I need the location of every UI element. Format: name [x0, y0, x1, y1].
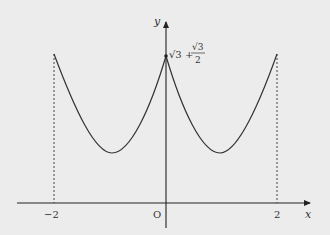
curve-left	[54, 54, 166, 153]
curve-right	[166, 54, 277, 153]
peak-value-denominator: 2	[195, 55, 201, 65]
origin-label: O	[153, 209, 161, 220]
x-axis-label: x	[305, 208, 312, 221]
x-tick-2-label: 2	[274, 209, 280, 220]
function-graph: y x O −2 2 √3 + √3 2	[0, 0, 330, 235]
x-tick-neg2-label: −2	[44, 209, 59, 220]
peak-value-label: √3 +	[169, 49, 193, 60]
peak-value-numerator: √3	[192, 42, 204, 52]
peak-point	[164, 54, 168, 58]
y-axis-label: y	[153, 15, 161, 28]
